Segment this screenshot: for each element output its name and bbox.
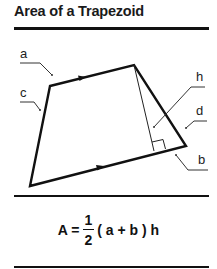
right-angle-marker (152, 140, 166, 150)
formula-top-divider (14, 195, 209, 197)
label-c: c (20, 85, 27, 100)
area-formula: A = 1 2 ( a + b ) h (0, 208, 217, 252)
formula-fraction: 1 2 (83, 213, 95, 247)
leader-d (186, 121, 207, 128)
formula-denominator: 2 (85, 230, 93, 247)
label-b: b (198, 152, 205, 167)
formula-rhs: ( a + b ) h (97, 222, 159, 238)
label-h: h (196, 69, 203, 84)
height-line (134, 65, 154, 151)
label-d: d (196, 103, 203, 118)
leader-c (20, 102, 40, 110)
leader-a (20, 63, 52, 75)
trapezoid-shape (30, 65, 186, 186)
formula-lhs: A = (58, 222, 80, 238)
formula-numerator: 1 (83, 213, 95, 230)
formula-bottom-divider (14, 266, 209, 268)
label-a: a (20, 46, 28, 61)
trapezoid-diagram: a c h d b (0, 0, 217, 200)
